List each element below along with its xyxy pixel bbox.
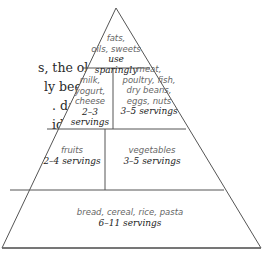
tier-servings: 6–11 servings — [60, 218, 200, 229]
tier-label: oils, sweets — [86, 44, 146, 55]
tier-meat: meat, poultry, fish, dry beans, eggs, nu… — [114, 64, 184, 117]
tier-label: yogurt, — [68, 86, 112, 97]
tier-label: bread, cereal, rice, pasta — [60, 207, 200, 218]
tier-servings: 2–4 servings — [40, 156, 104, 167]
tier-grains: bread, cereal, rice, pasta 6–11 servings — [60, 207, 200, 228]
tier-label: milk, — [68, 75, 112, 86]
tier-servings: 3–5 servings — [112, 156, 192, 167]
tier-label: vegetables — [112, 145, 192, 156]
tier-servings: 2–3 servings — [68, 107, 112, 128]
tier-label: eggs, nuts — [114, 96, 184, 107]
tier-label: meat, — [114, 64, 184, 75]
tier-label: dry beans, — [114, 85, 184, 96]
tier-fruits: fruits 2–4 servings — [40, 145, 104, 166]
tier-label: fats, — [86, 33, 146, 44]
tier-milk: milk, yogurt, cheese 2–3 servings — [68, 75, 112, 128]
tier-vegetables: vegetables 3–5 servings — [112, 145, 192, 166]
tier-label: fruits — [40, 145, 104, 156]
tier-servings: 3–5 servings — [114, 106, 184, 117]
tier-label: cheese — [68, 96, 112, 107]
tier-label: poultry, fish, — [114, 75, 184, 86]
